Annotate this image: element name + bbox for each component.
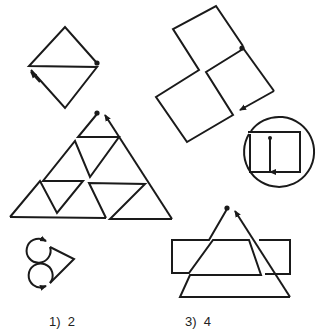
circle-rectangle-figure <box>244 117 314 187</box>
two-squares-figure <box>156 6 274 142</box>
triangle-rectangle-figure <box>172 205 290 297</box>
arrow-icon <box>235 211 290 297</box>
diamond-split-figure <box>29 27 100 108</box>
curl-chevron-figure <box>27 239 74 288</box>
start-dot-icon <box>224 205 229 210</box>
arrow-icon <box>43 286 46 287</box>
puzzle-figures-canvas <box>0 0 320 335</box>
arrow-icon <box>105 115 172 219</box>
triangle-grid-figure <box>10 110 172 219</box>
arrow-icon <box>240 91 274 110</box>
start-dot-icon <box>94 110 99 115</box>
arrow-icon <box>31 72 40 82</box>
answer-option-1: 1) 2 <box>49 314 75 329</box>
start-dot-icon <box>239 45 244 50</box>
start-dot-icon <box>94 60 99 65</box>
arrow-icon <box>44 240 46 241</box>
start-dot-icon <box>268 136 272 140</box>
answer-option-3: 3) 4 <box>185 314 211 329</box>
